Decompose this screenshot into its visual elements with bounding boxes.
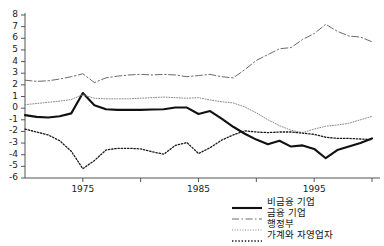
y-tick-label: 8 — [0, 9, 18, 19]
y-tick-label: 4 — [0, 56, 18, 66]
legend-item: 금융 기업 — [232, 207, 382, 218]
y-tick-label: 6 — [0, 32, 18, 42]
legend-label: 가계와 자영업자 — [267, 229, 333, 240]
chart-container: 876543210-1-2-3-4-5-6 197519851995 비금융 기… — [0, 0, 384, 246]
chart-legend: 비금융 기업금융 기업행정부가계와 자영업자 — [232, 196, 382, 240]
legend-line-sample — [232, 208, 262, 217]
y-tick-label: 7 — [0, 21, 18, 31]
y-tick-label: 1 — [0, 91, 18, 101]
series-line-1 — [25, 24, 372, 82]
x-tick-label: 1975 — [67, 184, 99, 194]
y-tick-label: 3 — [0, 67, 18, 77]
y-tick-label: 2 — [0, 79, 18, 89]
x-tick-label: 1985 — [183, 184, 215, 194]
y-tick-label: -3 — [0, 137, 18, 147]
legend-label: 금융 기업 — [267, 207, 306, 218]
legend-item: 행정부 — [232, 218, 382, 229]
y-tick-label: 0 — [0, 102, 18, 112]
x-tick-label: 1995 — [298, 184, 330, 194]
y-tick-label: -2 — [0, 125, 18, 135]
legend-label: 비금융 기업 — [267, 196, 315, 207]
legend-label: 행정부 — [267, 218, 294, 229]
y-tick-label: -1 — [0, 114, 18, 124]
y-tick-label: 5 — [0, 44, 18, 54]
legend-line-sample — [232, 219, 262, 228]
y-tick-label: -4 — [0, 149, 18, 159]
series-line-0 — [25, 93, 372, 158]
legend-line-sample — [232, 197, 262, 206]
legend-item: 가계와 자영업자 — [232, 229, 382, 240]
y-tick-label: -6 — [0, 172, 18, 182]
series-line-3 — [25, 129, 372, 169]
y-tick-label: -5 — [0, 160, 18, 170]
legend-item: 비금융 기업 — [232, 196, 382, 207]
legend-line-sample — [232, 230, 262, 239]
